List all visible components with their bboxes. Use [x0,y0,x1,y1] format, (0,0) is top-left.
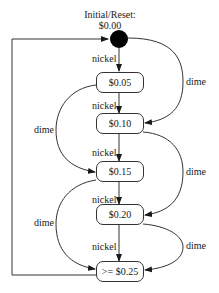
state-label: $0.05 [109,77,132,88]
edge-label-dime: dime [34,217,54,228]
state-label: >= $0.25 [102,266,138,277]
state-0-25-or-more: >= $0.25 [96,261,144,282]
state-0-10: $0.10 [96,113,144,134]
edge-label-dime: dime [186,76,206,87]
edge-label-nickel: nickel [92,147,116,158]
state-0-15: $0.15 [96,161,144,182]
edge-label-nickel: nickel [92,194,116,205]
edge-label-dime: dime [34,124,54,135]
edge-dime-010-020 [143,132,183,215]
edge-label-dime: dime [186,240,206,251]
state-label: $0.20 [109,209,132,220]
edge-label-nickel: nickel [92,53,116,64]
initial-state-title-line2: $0.00 [60,20,160,32]
initial-state-node [110,30,128,48]
edge-dime-020-025 [143,224,183,270]
edge-label-nickel: nickel [92,100,116,111]
state-label: $0.10 [109,118,132,129]
edge-dime-005-015 [56,85,96,172]
state-label: $0.15 [109,166,132,177]
edge-label-dime: dime [186,166,206,177]
edge-dime-015-025 [56,180,96,269]
state-0-20: $0.20 [96,204,144,225]
edge-label-nickel: nickel [92,241,116,252]
state-0-05: $0.05 [96,72,144,93]
